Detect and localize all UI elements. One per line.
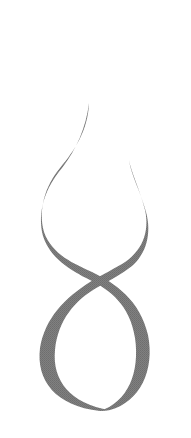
ribbon-figure-eight-icon — [0, 0, 191, 438]
image-canvas — [0, 0, 191, 438]
right-ribbon-strand — [39, 160, 148, 411]
